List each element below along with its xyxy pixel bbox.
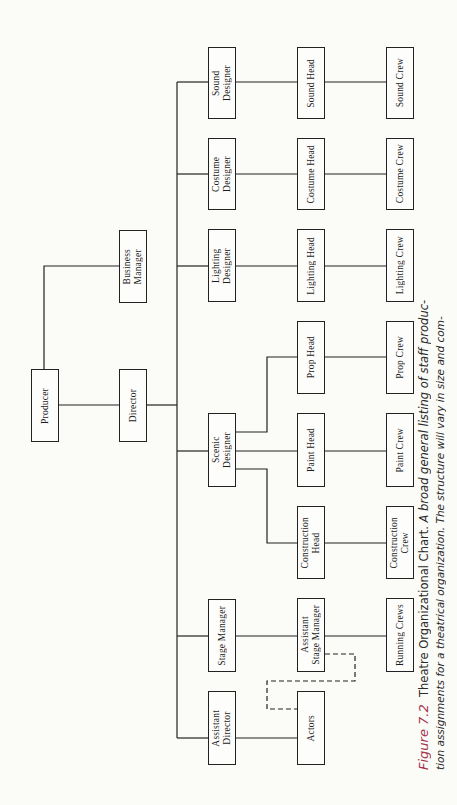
node-label: Sound Crew bbox=[395, 58, 406, 107]
node-label: Scenic Designer bbox=[211, 432, 233, 468]
node-prop-head[interactable]: Prop Head bbox=[297, 321, 325, 394]
node-label: Construction Crew bbox=[389, 517, 411, 568]
node-construction-head[interactable]: Construction Head bbox=[297, 506, 325, 579]
node-label: Stage Manager bbox=[217, 606, 228, 666]
node-paint-crew[interactable]: Paint Crew bbox=[386, 413, 414, 487]
node-label: Costume Head bbox=[306, 145, 317, 204]
node-business-manager[interactable]: Business Manager bbox=[119, 230, 147, 303]
node-sound-crew[interactable]: Sound Crew bbox=[386, 47, 414, 119]
caption-text-line2: tion assignments for a theatrical organi… bbox=[434, 316, 446, 770]
edge-scenic-prop-head bbox=[236, 357, 297, 432]
node-assistant-director[interactable]: Assistant Director bbox=[208, 691, 236, 765]
node-label: Construction Head bbox=[300, 517, 322, 568]
node-construction-crew[interactable]: Construction Crew bbox=[386, 506, 414, 579]
figure-caption-line1: Figure 7.2 Theatre Organizational Chart.… bbox=[416, 300, 431, 770]
edge-producer-business-manager bbox=[44, 266, 119, 369]
node-label: Prop Crew bbox=[395, 336, 406, 379]
node-paint-head[interactable]: Paint Head bbox=[297, 413, 325, 487]
node-label: Running Crews bbox=[395, 604, 406, 666]
node-label: Producer bbox=[40, 388, 51, 424]
caption-text-line1: A broad general listing of staff produc- bbox=[417, 300, 431, 523]
figure-caption-line2: tion assignments for a theatrical organi… bbox=[434, 300, 446, 770]
node-label: Lighting Head bbox=[306, 237, 317, 295]
node-label: Paint Crew bbox=[395, 428, 406, 472]
node-label: Lighting Crew bbox=[395, 236, 406, 294]
node-stage-manager[interactable]: Stage Manager bbox=[208, 599, 236, 672]
org-chart-connectors bbox=[0, 0, 457, 805]
node-label: Sound Head bbox=[306, 59, 317, 108]
node-producer[interactable]: Producer bbox=[31, 369, 59, 442]
node-label: Director bbox=[128, 389, 139, 422]
node-costume-crew[interactable]: Costume Crew bbox=[386, 138, 414, 210]
node-director[interactable]: Director bbox=[119, 369, 147, 442]
node-label: Actors bbox=[306, 715, 317, 742]
node-actors[interactable]: Actors bbox=[297, 691, 325, 765]
node-label: Lighting Designer bbox=[211, 248, 233, 284]
node-label: Assistant Stage Manager bbox=[300, 605, 322, 665]
node-label: Costume Crew bbox=[395, 144, 406, 203]
node-running-crews[interactable]: Running Crews bbox=[386, 598, 414, 672]
figure-title: Theatre Organizational Chart. bbox=[417, 526, 431, 697]
node-costume-designer[interactable]: Costume Designer bbox=[208, 138, 236, 210]
node-lighting-designer[interactable]: Lighting Designer bbox=[208, 229, 236, 302]
node-lighting-crew[interactable]: Lighting Crew bbox=[386, 229, 414, 302]
node-assistant-stage-manager[interactable]: Assistant Stage Manager bbox=[297, 598, 325, 672]
node-label: Paint Head bbox=[306, 428, 317, 472]
node-sound-head[interactable]: Sound Head bbox=[297, 47, 325, 119]
node-label: Business Manager bbox=[122, 249, 144, 284]
node-label: Sound Designer bbox=[211, 65, 233, 101]
edge-scenic-construction-head bbox=[236, 469, 297, 543]
figure-label: Figure 7.2 bbox=[416, 704, 431, 770]
node-costume-head[interactable]: Costume Head bbox=[297, 138, 325, 210]
node-label: Assistant Director bbox=[211, 710, 233, 747]
node-scenic-designer[interactable]: Scenic Designer bbox=[208, 413, 236, 487]
node-prop-crew[interactable]: Prop Crew bbox=[386, 321, 414, 394]
node-label: Prop Head bbox=[306, 336, 317, 378]
node-label: Costume Designer bbox=[211, 156, 233, 192]
node-lighting-head[interactable]: Lighting Head bbox=[297, 229, 325, 302]
node-sound-designer[interactable]: Sound Designer bbox=[208, 47, 236, 119]
